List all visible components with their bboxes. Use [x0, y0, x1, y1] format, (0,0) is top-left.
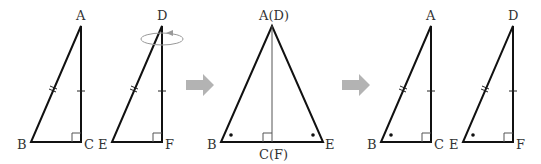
label-apex: A(D)	[258, 8, 289, 23]
triangle-def-step3: D E F	[449, 8, 525, 152]
label-e: E	[98, 137, 108, 152]
right-angle-mark-f	[153, 133, 162, 142]
label-c: C	[84, 137, 94, 152]
label-e3: E	[449, 137, 459, 152]
label-foot: C(F)	[259, 147, 288, 162]
triangle-abc-step3: A B C	[367, 8, 444, 152]
right-angle-mark-f3	[504, 133, 513, 142]
angle-dot-b	[229, 133, 233, 137]
angle-dot-e3	[471, 133, 475, 137]
right-arrow-icon	[186, 74, 214, 96]
label-e2: E	[325, 137, 335, 152]
right-angle-mark-c	[72, 133, 81, 142]
label-d: D	[157, 8, 167, 23]
right-arrow-icon	[342, 74, 370, 96]
right-angle-mark-cf	[263, 133, 272, 142]
triangle-abc-step1: A B C	[17, 8, 94, 152]
angle-dot-e	[311, 133, 315, 137]
label-d3: D	[508, 8, 518, 23]
congruent-triangles-figure: A B C D E F A(D) B E C(F)	[0, 0, 541, 164]
label-a: A	[75, 8, 86, 23]
label-b3: B	[367, 137, 377, 152]
isosceles-triangle-abe: A(D) B E C(F)	[207, 8, 335, 162]
triangle-def-step1: D E F	[98, 8, 183, 152]
right-angle-mark-c3	[422, 133, 431, 142]
label-f: F	[165, 137, 174, 152]
label-a3: A	[425, 8, 436, 23]
label-b2: B	[207, 137, 217, 152]
angle-dot-b3	[389, 133, 393, 137]
label-b: B	[17, 137, 27, 152]
label-c3: C	[434, 137, 444, 152]
label-f3: F	[516, 137, 525, 152]
